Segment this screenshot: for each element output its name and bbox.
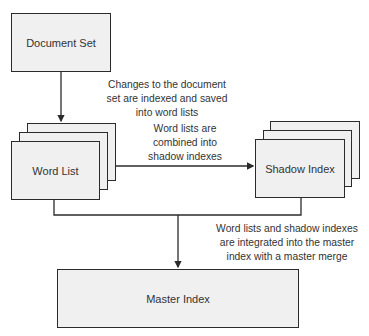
shadow-index-node: Shadow Index: [255, 139, 345, 198]
annotation-line: Word lists and shadow indexes: [212, 222, 362, 236]
annotation-line: combined into: [130, 136, 240, 150]
annotation-line: shadow indexes: [130, 150, 240, 164]
annotation-line: Changes to the document: [92, 78, 242, 92]
shadow-index-label: Shadow Index: [265, 163, 335, 175]
word-list-label: Word List: [32, 165, 78, 177]
document-set-label: Document Set: [26, 37, 96, 49]
annotation-line: into word lists: [92, 106, 242, 120]
annotation-line: are integrated into the master: [212, 236, 362, 250]
annotation-to-master: Word lists and shadow indexes are integr…: [212, 222, 362, 264]
master-index-label: Master Index: [146, 293, 210, 305]
annotation-doc-to-wordlist: Changes to the document set are indexed …: [92, 78, 242, 120]
annotation-line: Word lists are: [130, 122, 240, 136]
master-index-node: Master Index: [57, 269, 299, 328]
document-set-node: Document Set: [11, 13, 111, 72]
word-list-node: Word List: [11, 141, 100, 200]
annotation-line: index with a master merge: [212, 250, 362, 264]
annotation-line: set are indexed and saved: [92, 92, 242, 106]
annotation-wordlist-to-shadow: Word lists are combined into shadow inde…: [130, 122, 240, 164]
